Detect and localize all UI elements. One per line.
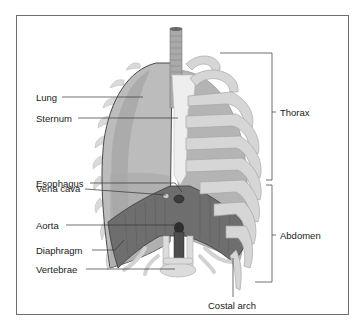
label-sternum: Sternum [36,113,72,124]
vena-cava-illustration [163,194,169,199]
thoracic-anatomy-illustration [0,0,363,332]
label-costal-arch: Costal arch [208,300,256,311]
label-aorta: Aorta [36,220,59,231]
label-lung: Lung [36,92,57,103]
label-thorax: Thorax [280,107,310,118]
aorta-illustration [174,222,184,262]
label-diaphragm: Diaphragm [36,245,82,256]
label-abdomen: Abdomen [280,230,321,241]
label-vertebrae: Vertebrae [36,264,77,275]
esophagus-illustration [174,195,184,203]
label-vena-cava: Vena cava [36,183,80,194]
